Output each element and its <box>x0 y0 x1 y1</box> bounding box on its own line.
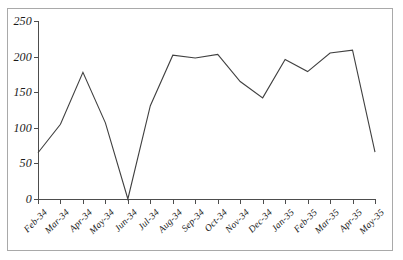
data-series-line <box>38 50 375 199</box>
chart-plot-area <box>0 0 403 260</box>
chart-container: 050100150200250 Feb-34Mar-34Apr-34May-34… <box>0 0 403 260</box>
